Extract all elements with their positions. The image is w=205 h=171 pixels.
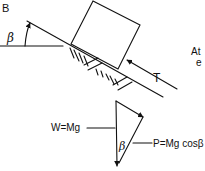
triangle-angle-label: β bbox=[118, 140, 125, 153]
top-vector bbox=[116, 101, 143, 117]
weight-label: W=Mg bbox=[51, 122, 80, 133]
cropped-text: At bbox=[191, 46, 201, 57]
inclined-plane-diagram: B β T At e W=Mg β P=Mg cosβ bbox=[0, 0, 205, 171]
force-triangle bbox=[116, 101, 143, 166]
angle-arc-icon bbox=[25, 23, 30, 46]
weight-vector bbox=[116, 101, 117, 166]
ground-hatching bbox=[70, 48, 132, 90]
panel-label: B bbox=[2, 2, 9, 14]
incline-angle-label: β bbox=[6, 31, 14, 45]
force-T-arrow bbox=[127, 60, 177, 89]
cropped-text-2: e bbox=[196, 57, 202, 68]
normal-label: P=Mg cosβ bbox=[153, 138, 204, 149]
force-T-label: T bbox=[153, 71, 161, 85]
